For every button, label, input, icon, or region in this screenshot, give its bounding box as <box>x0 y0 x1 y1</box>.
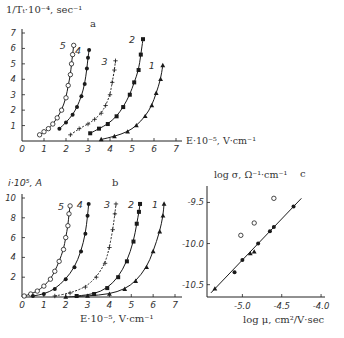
open-circle-marker <box>46 126 50 130</box>
series-4: 4 <box>57 45 91 131</box>
x-tick-label: 3 <box>85 144 91 154</box>
filled-triangle-marker <box>144 265 149 269</box>
open-circle-marker <box>51 122 55 126</box>
x-tick-label: 5 <box>128 300 134 310</box>
fit-curve <box>101 65 163 139</box>
x-tick-label: 4 <box>107 300 113 310</box>
x-axis-label: E·10⁻⁵, V·cm⁻¹ <box>186 135 256 146</box>
y-tick-label: 4 <box>11 252 16 262</box>
fit-curve <box>59 50 89 129</box>
plus-marker <box>107 245 111 249</box>
filled-square-marker <box>141 37 145 41</box>
panel-b: 0123456724681054321bi·10⁵, AE·10⁻⁵, V·cm… <box>5 177 182 324</box>
filled-circle-marker <box>72 265 76 269</box>
open-circle-marker <box>67 212 71 216</box>
panel-label: b <box>112 177 118 188</box>
curve-label: 5 <box>58 201 64 212</box>
open-circle-marker <box>48 277 52 281</box>
plus-marker <box>83 285 87 289</box>
open-circle-marker <box>22 294 26 298</box>
fit-line <box>211 198 301 293</box>
y-tick-label: 10 <box>5 193 16 203</box>
panel-label: a <box>90 18 96 29</box>
open-circle-marker <box>68 204 72 208</box>
filled-square-marker <box>137 68 141 72</box>
filled-square-marker <box>125 259 129 263</box>
open-circle-marker <box>57 259 61 263</box>
figure: 01234567123456754321a1/Tₜ·10⁻⁴, sec⁻¹E·1… <box>0 0 344 338</box>
x-tick-label: 2 <box>63 300 69 310</box>
filled-circle-marker <box>64 277 68 281</box>
panel-c: -5.0-4.5-4.0-9.5-10.0-10.5clog σ, Ω⁻¹·cm… <box>182 168 329 325</box>
filled-square-marker <box>115 114 119 118</box>
open-circle-marker <box>61 247 65 251</box>
filled-square-marker <box>132 80 136 84</box>
x-axis-label: log μ, cm²/V·sec <box>243 314 325 325</box>
plus-marker <box>110 80 114 84</box>
y-tick-label: 2 <box>11 272 16 282</box>
open-circle-marker <box>252 221 256 225</box>
x-tick-label: 1 <box>41 300 47 310</box>
filled-circle-marker <box>240 258 244 262</box>
open-circle-marker <box>69 62 73 66</box>
filled-square-marker <box>128 93 132 97</box>
series-5: 5 <box>22 201 72 298</box>
plus-marker <box>113 59 117 63</box>
filled-circle-marker <box>79 249 83 253</box>
open-circle-marker <box>55 116 59 120</box>
filled-square-marker <box>105 286 109 290</box>
open-circle-marker <box>42 284 46 288</box>
filled-circle-marker <box>79 94 83 98</box>
filled-circle-marker <box>64 120 68 124</box>
filled-circle-marker <box>42 292 46 296</box>
filled-triangle-marker <box>160 63 165 67</box>
open-circle-marker <box>53 269 57 273</box>
filled-square-marker <box>137 210 141 214</box>
x-tick-label: 1 <box>41 144 47 154</box>
open-circle-marker <box>59 108 63 112</box>
curve-label: 3 <box>104 199 110 210</box>
y-tick-label: -9.5 <box>187 197 204 207</box>
curve-label: 3 <box>102 56 108 67</box>
panel-a: 01234567123456754321a1/Tₜ·10⁻⁴, sec⁻¹E·1… <box>6 4 256 154</box>
y-tick-label: 7 <box>11 28 17 38</box>
filled-circle-marker <box>256 242 260 246</box>
y-tick-label: 6 <box>11 43 17 53</box>
open-circle-marker <box>37 133 41 137</box>
plus-marker <box>112 68 116 72</box>
plus-marker <box>53 294 57 298</box>
y-tick-label: 3 <box>11 90 16 100</box>
filled-circle-marker <box>87 48 91 52</box>
open-circle-marker <box>272 196 276 200</box>
x-tick-label: 2 <box>63 144 69 154</box>
filled-circle-marker <box>71 113 75 117</box>
y-tick-label: 5 <box>11 59 16 69</box>
filled-square-marker <box>88 131 92 135</box>
filled-triangle-marker <box>143 114 148 118</box>
series-1: 1 <box>99 60 165 141</box>
x-tick-label: -4.0 <box>313 301 330 311</box>
filled-circle-marker <box>57 127 61 131</box>
open-circle-marker <box>68 72 72 76</box>
x-tick-label: 6 <box>151 144 157 154</box>
y-tick-label: 2 <box>11 105 16 115</box>
curve-label: 4 <box>75 45 81 56</box>
open-circle-marker <box>35 289 39 293</box>
x-tick-label: 5 <box>129 144 135 154</box>
filled-square-marker <box>138 202 142 206</box>
plus-marker <box>92 117 96 121</box>
filled-circle-marker <box>233 270 237 274</box>
filled-triangle-marker <box>158 77 163 81</box>
filled-square-marker <box>116 275 120 279</box>
series-2: 2 <box>88 34 145 135</box>
x-axis-label: E·10⁻⁵, V·cm⁻¹ <box>80 313 154 324</box>
filled-triangle-marker <box>161 213 166 217</box>
filled-square-marker <box>139 53 143 57</box>
filled-triangle-marker <box>149 103 154 107</box>
open-circle-marker <box>64 235 68 239</box>
x-tick-label: 3 <box>85 300 91 310</box>
filled-square-marker <box>121 105 125 109</box>
curve-label: 1 <box>149 60 155 71</box>
filled-triangle-marker <box>162 201 167 205</box>
filled-circle-marker <box>31 294 35 298</box>
